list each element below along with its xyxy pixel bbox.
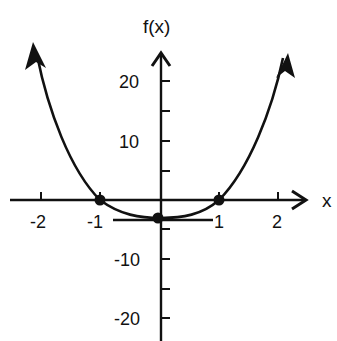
right-arrowhead-icon: [276, 53, 295, 78]
y-axis: [152, 53, 170, 341]
x-tick-label: -2: [30, 212, 46, 232]
x-axis-label: x: [322, 190, 332, 211]
root-point-left: [95, 195, 106, 206]
x-axis: [10, 191, 306, 209]
left-arrowhead-icon: [25, 42, 46, 70]
y-tick-label: 10: [119, 132, 139, 152]
y-tick-label: 20: [119, 72, 139, 92]
function-graph: f(x) x -2 -1 1 2 20 10 -10 -20: [0, 0, 337, 341]
minimum-point: [153, 213, 164, 224]
x-tick-label: 1: [214, 212, 224, 232]
y-tick-label: -10: [114, 250, 140, 270]
y-axis-label: f(x): [143, 16, 170, 37]
x-tick-label: 2: [272, 212, 282, 232]
y-tick-label: -20: [114, 309, 140, 329]
x-tick-label: -1: [87, 212, 103, 232]
root-point-right: [214, 195, 225, 206]
